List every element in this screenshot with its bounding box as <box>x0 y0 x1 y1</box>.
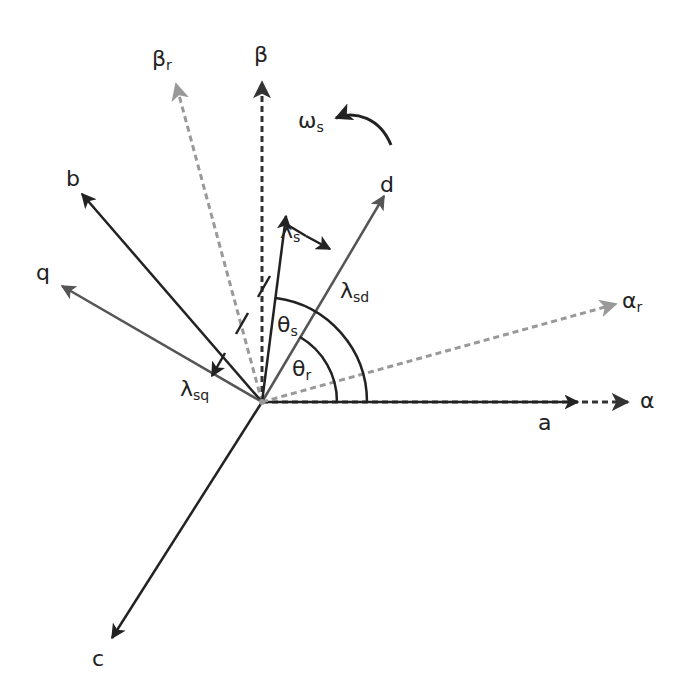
label-beta-r: βr <box>152 48 172 72</box>
label-alpha-r: αr <box>622 290 642 314</box>
label-lambda-sd: λsd <box>340 280 369 304</box>
label-beta: β <box>254 44 268 66</box>
label-d: d <box>380 174 394 196</box>
label-lambda-sq: λsq <box>180 378 209 402</box>
label-lambda-s: λs <box>280 220 300 244</box>
label-alpha: α <box>640 390 655 412</box>
vector-diagram <box>0 0 693 689</box>
label-theta-s: θs <box>277 314 298 338</box>
q-axis <box>62 286 262 402</box>
c-axis <box>112 402 262 638</box>
b-axis <box>82 194 262 402</box>
lambda-sd-projection <box>306 236 330 249</box>
label-theta-r: θr <box>292 358 311 382</box>
label-omega-s: ωs <box>298 110 324 134</box>
label-c: c <box>92 648 104 670</box>
lambda-sq-projection <box>212 353 225 376</box>
omega-s-arrow <box>336 115 391 145</box>
origin-point <box>259 399 265 405</box>
label-b: b <box>66 168 80 190</box>
projection-dash-q-2 <box>258 276 270 297</box>
label-q: q <box>36 262 50 284</box>
alpha-r-axis <box>262 304 616 402</box>
label-a: a <box>538 412 551 434</box>
beta-r-axis <box>176 84 262 402</box>
